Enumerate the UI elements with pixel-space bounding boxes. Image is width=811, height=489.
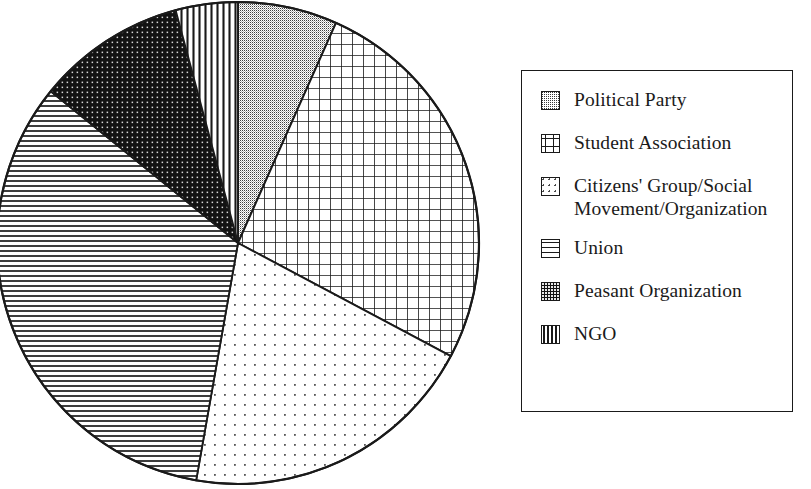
legend-items: Political Party Student Association Citi… xyxy=(541,88,786,365)
legend-swatch-political-party-icon xyxy=(541,91,560,110)
legend-item-citizens-group: Citizens' Group/Social Movement/Organiza… xyxy=(541,174,786,220)
legend-item-political-party: Political Party xyxy=(541,88,786,111)
legend-label-union: Union xyxy=(574,236,623,259)
legend-swatch-student-association-icon xyxy=(541,134,560,153)
legend-label-citizens-group: Citizens' Group/Social Movement/Organiza… xyxy=(574,174,767,220)
legend-swatch-peasant-organization-icon xyxy=(541,282,560,301)
legend-label-political-party: Political Party xyxy=(574,88,687,111)
legend-label-peasant-organization: Peasant Organization xyxy=(574,279,742,302)
pie-chart-figure: Political Party Student Association Citi… xyxy=(0,0,811,489)
pie-chart-area xyxy=(0,0,500,489)
pie-chart-svg xyxy=(0,0,500,489)
legend-label-ngo: NGO xyxy=(574,322,617,345)
legend-item-student-association: Student Association xyxy=(541,131,786,154)
legend: Political Party Student Association Citi… xyxy=(521,70,793,412)
legend-swatch-ngo-icon xyxy=(541,325,560,344)
legend-item-ngo: NGO xyxy=(541,322,786,345)
legend-item-peasant-organization: Peasant Organization xyxy=(541,279,786,302)
legend-item-union: Union xyxy=(541,236,786,259)
legend-swatch-citizens-group-icon xyxy=(541,177,560,196)
legend-swatch-union-icon xyxy=(541,239,560,258)
legend-label-student-association: Student Association xyxy=(574,131,731,154)
